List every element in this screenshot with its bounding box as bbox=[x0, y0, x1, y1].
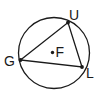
label-F: F bbox=[56, 44, 65, 60]
point-L bbox=[80, 65, 84, 69]
triangle-GUL bbox=[21, 23, 83, 68]
geometry-diagram: U G L F bbox=[0, 0, 99, 91]
label-U: U bbox=[69, 7, 79, 23]
point-G bbox=[19, 58, 23, 62]
label-L: L bbox=[86, 65, 94, 81]
point-F bbox=[51, 51, 54, 54]
label-G: G bbox=[4, 53, 15, 69]
